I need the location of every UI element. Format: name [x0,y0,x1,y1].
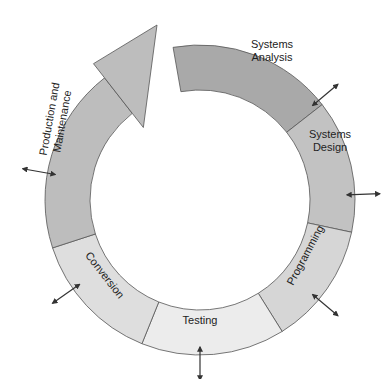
io-arrow-programming-icon [313,294,338,315]
io-arrow-analysis-icon [313,84,338,105]
sdlc-cycle-diagram: SystemsAnalysisSystemsDesignProgrammingT… [0,0,383,379]
stage-segment-conversion [53,234,159,344]
io-arrow-conversion-icon [53,284,80,303]
stage-label-analysis: SystemsAnalysis [251,38,294,63]
stage-label-design: SystemsDesign [309,128,352,153]
stage-label-testing: Testing [183,314,218,326]
stage-segment-analysis [173,45,322,132]
